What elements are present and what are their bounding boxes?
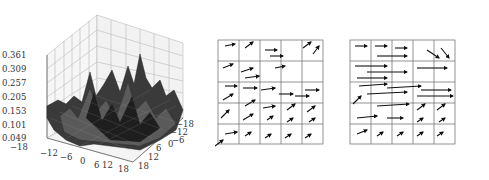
x-tick: 12	[102, 160, 113, 170]
surface-plot-canvas	[0, 0, 200, 180]
quiver-plot-2-canvas	[347, 38, 467, 150]
quiver-plot-1	[215, 38, 330, 150]
quiver-plot-2	[347, 38, 467, 150]
x-tick: 0	[80, 156, 85, 166]
z-tick: 0.361	[2, 50, 26, 60]
x-tick: 6	[94, 160, 99, 170]
y-tick: 18	[138, 161, 149, 171]
x-tick: −12	[40, 148, 58, 158]
z-tick: 0.101	[2, 120, 26, 130]
y-tick: 6	[156, 143, 161, 153]
y-tick: −18	[176, 119, 194, 129]
z-tick: 0.257	[2, 78, 26, 88]
quiver-plot-1-canvas	[215, 38, 330, 150]
z-tick: 0.153	[2, 106, 26, 116]
z-tick: 0.309	[2, 64, 26, 74]
z-tick: 0.205	[2, 92, 26, 102]
x-tick: 18	[118, 164, 129, 174]
y-tick: 12	[148, 152, 159, 162]
surface-plot: 0.361 0.309 0.257 0.205 0.153 0.101 0.04…	[0, 0, 200, 180]
x-tick: −6	[60, 152, 73, 162]
x-tick: −18	[10, 142, 28, 152]
